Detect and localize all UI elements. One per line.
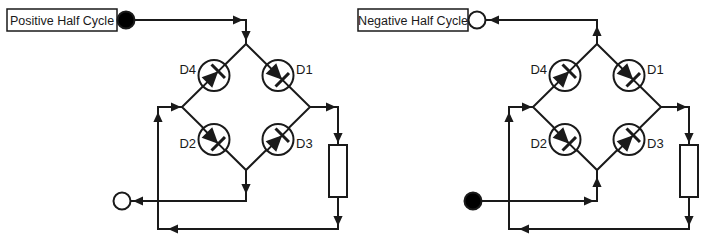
current-arrow <box>504 112 513 122</box>
cycle-label: Positive Half Cycle <box>10 14 114 28</box>
current-arrow <box>584 196 594 205</box>
current-arrow <box>241 31 250 41</box>
ac-terminal-top <box>469 12 486 29</box>
current-arrow <box>677 102 687 111</box>
diode-d1-label: D1 <box>647 62 664 77</box>
diode-d3-label: D3 <box>296 136 313 151</box>
current-arrow <box>133 196 143 205</box>
current-arrow <box>522 102 532 111</box>
diode-d1-label: D1 <box>296 62 313 77</box>
diode-d2-label: D2 <box>179 136 196 151</box>
diode-d4-label: D4 <box>530 62 547 77</box>
current-arrow <box>241 184 250 194</box>
cycle-label: Negative Half Cycle <box>358 14 468 28</box>
negative-half-cycle-panel: Negative Half Cycle D4 D1 D2 D3 <box>358 9 698 234</box>
diode-d4-label: D4 <box>179 62 196 77</box>
positive-half-cycle-panel: Positive Half Cycle D4 D1 D2 D3 <box>7 9 347 234</box>
ac-terminal-bottom <box>465 193 482 210</box>
ac-terminal-bottom <box>114 193 131 210</box>
wire-right-out <box>661 107 689 145</box>
bridge-diamond <box>533 44 661 170</box>
diode-d3-label: D3 <box>647 136 664 151</box>
current-arrow <box>489 15 499 24</box>
current-arrow <box>171 102 181 111</box>
current-arrow <box>592 26 601 36</box>
load-resistor <box>329 145 347 197</box>
circuit-canvas: Positive Half Cycle D4 D1 D2 D3 <box>0 0 706 238</box>
current-arrow <box>519 224 529 233</box>
wire-left-return <box>158 107 182 229</box>
wire-left-return <box>509 107 533 229</box>
wire-top-feed <box>135 20 246 44</box>
diode-d2-label: D2 <box>530 136 547 151</box>
load-resistor <box>680 145 698 197</box>
ac-terminal-top <box>118 12 135 29</box>
current-arrow <box>326 102 336 111</box>
current-arrow <box>684 216 693 226</box>
bridge-diamond <box>182 44 310 170</box>
current-arrow <box>168 224 178 233</box>
current-arrow <box>333 133 342 143</box>
current-arrow <box>233 15 243 24</box>
wire-top-feed <box>487 20 597 44</box>
wire-right-out <box>310 107 338 145</box>
current-arrow <box>153 112 162 122</box>
bridge-rectifier-diagram: Positive Half Cycle D4 D1 D2 D3 <box>0 0 706 238</box>
current-arrow <box>684 133 693 143</box>
current-arrow <box>592 177 601 187</box>
current-arrow <box>333 216 342 226</box>
wire-bottom-out <box>131 170 246 201</box>
wire-bottom-out <box>482 170 597 201</box>
